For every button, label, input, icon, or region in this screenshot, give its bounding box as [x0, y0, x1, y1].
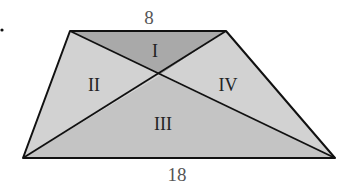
region-label-I: I	[152, 41, 158, 61]
trapezoid-diagram: 8 18 I II III IV	[0, 0, 350, 186]
region-label-III: III	[154, 114, 172, 134]
top-base-label: 8	[144, 7, 154, 28]
bottom-base-label: 18	[168, 164, 187, 185]
region-label-IV: IV	[219, 75, 238, 95]
bullet-dot	[0, 28, 3, 31]
diagram-canvas: 8 18 I II III IV	[0, 0, 350, 186]
region-label-II: II	[88, 75, 100, 95]
